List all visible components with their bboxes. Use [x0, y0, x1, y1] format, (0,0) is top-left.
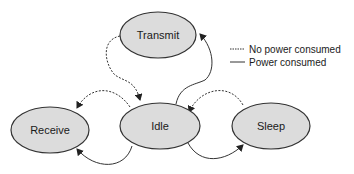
legend-solid-label: Power consumed [249, 57, 326, 68]
state-transmit: Transmit [120, 12, 196, 58]
legend: No power consumed Power consumed [230, 44, 341, 68]
transition-sleep-to-idle [189, 91, 243, 112]
transition-idle-to-receive-dashed [77, 91, 130, 108]
state-idle: Idle [120, 103, 200, 149]
transition-idle-to-receive-solid [77, 146, 132, 164]
state-label: Sleep [257, 120, 285, 132]
transition-idle-to-sleep [188, 143, 243, 159]
state-sleep: Sleep [232, 103, 310, 149]
state-receive: Receive [11, 107, 89, 153]
state-label: Receive [30, 124, 70, 136]
state-label: Transmit [137, 29, 179, 41]
state-label: Idle [151, 120, 169, 132]
state-diagram: Transmit Idle Receive Sleep No power con… [0, 0, 354, 174]
legend-dashed-label: No power consumed [249, 44, 341, 55]
